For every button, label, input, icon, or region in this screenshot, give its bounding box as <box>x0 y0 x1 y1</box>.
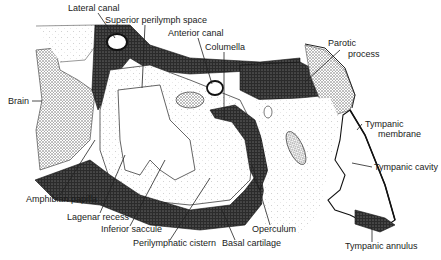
label-operculum: Operculum <box>252 224 296 234</box>
label-amphibian-papilla: Amphibian papilla <box>26 194 97 204</box>
label-tympanic-cavity: Tympanic cavity <box>374 162 439 172</box>
columella-footplate <box>176 92 204 108</box>
ear-anatomy-diagram: Lateral canal Superior perilymph space A… <box>0 0 441 260</box>
small-vessel <box>264 106 272 118</box>
brain-region <box>36 48 95 170</box>
label-perilymphatic-cistern: Perilymphatic cistern <box>133 238 216 248</box>
label-superior-perilymph-space: Superior perilymph space <box>105 15 207 25</box>
label-lagenar-recess: Lagenar recess <box>67 212 130 222</box>
middle-tissue <box>255 98 340 235</box>
lateral-canal-ring <box>107 34 127 50</box>
label-columella: Columella <box>205 42 245 52</box>
label-inferior-saccule: Inferior saccule <box>101 224 162 234</box>
label-parotic-process-line1: Parotic <box>328 38 357 48</box>
label-basal-cartilage: Basal cartilage <box>222 238 281 248</box>
label-lateral-canal: Lateral canal <box>68 3 120 13</box>
label-tympanic-membrane-line1: Tympanic <box>365 119 404 129</box>
label-anterior-canal: Anterior canal <box>168 28 224 38</box>
label-parotic-process-line2: process <box>348 49 380 59</box>
label-tympanic-membrane-line2: membrane <box>378 129 421 139</box>
anterior-canal-ring <box>207 81 223 95</box>
label-brain: Brain <box>8 96 29 106</box>
label-tympanic-annulus: Tympanic annulus <box>345 241 418 251</box>
